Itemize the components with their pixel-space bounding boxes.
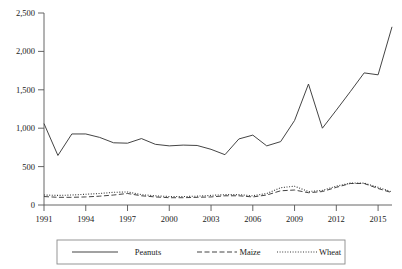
x-tick-label: 2003 — [203, 214, 220, 224]
chart-background — [0, 0, 402, 269]
y-tick-label: 0 — [31, 200, 35, 210]
y-tick-label: 1,000 — [16, 123, 35, 133]
line-chart-svg: 05001,0001,5002,0002,500 199119941997200… — [0, 0, 402, 269]
x-tick-label: 1991 — [36, 214, 53, 224]
chart-figure: 05001,0001,5002,0002,500 199119941997200… — [0, 0, 402, 269]
y-tick-label: 2,000 — [16, 46, 35, 56]
legend-label-maize[interactable]: Maize — [239, 247, 260, 257]
x-tick-label: 2006 — [244, 214, 261, 224]
x-tick-label: 2000 — [161, 214, 178, 224]
legend-label-wheat[interactable]: Wheat — [319, 247, 342, 257]
x-tick-label: 1994 — [77, 214, 95, 224]
y-tick-label: 2,500 — [16, 8, 35, 18]
legend-label-peanuts[interactable]: Peanuts — [135, 247, 161, 257]
x-tick-label: 2012 — [328, 214, 345, 224]
y-tick-label: 500 — [22, 162, 35, 172]
x-tick-label: 2015 — [370, 214, 387, 224]
x-tick-label: 2009 — [286, 214, 303, 224]
y-tick-label: 1,500 — [16, 85, 35, 95]
x-tick-label: 1997 — [119, 214, 136, 224]
